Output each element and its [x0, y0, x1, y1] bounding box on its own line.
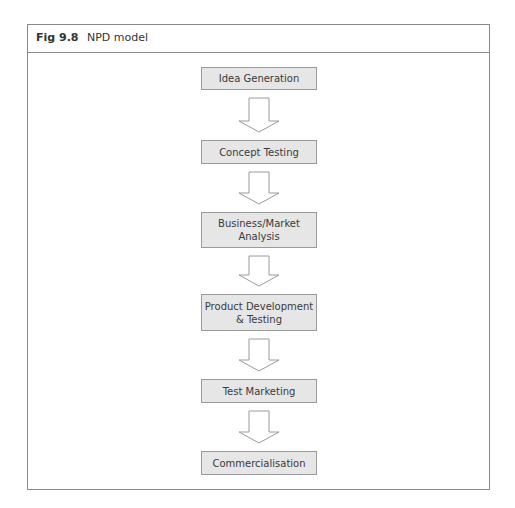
- step-commercialisation: Commercialisation: [201, 451, 317, 475]
- step-product-development-testing: Product Development & Testing: [201, 294, 317, 331]
- step-business-market-analysis: Business/Market Analysis: [201, 212, 317, 248]
- step-test-marketing: Test Marketing: [201, 379, 317, 403]
- flow-arrow-3: [239, 256, 279, 286]
- step-idea-generation: Idea Generation: [201, 67, 317, 90]
- step-concept-testing: Concept Testing: [201, 140, 317, 164]
- flow-arrow-1: [239, 98, 279, 132]
- flow-arrow-5: [239, 411, 279, 443]
- flow-arrow-2: [239, 172, 279, 204]
- flow-arrow-4: [239, 339, 279, 371]
